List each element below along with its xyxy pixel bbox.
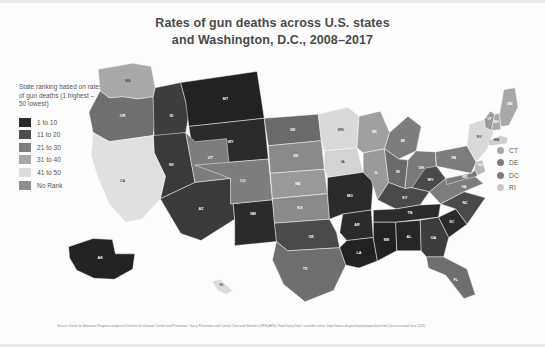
state-shape-me[interactable] (500, 88, 518, 127)
state-label-me: ME (507, 102, 513, 106)
state-label-wa: WA (125, 79, 131, 83)
state-label-tx: TX (303, 267, 308, 271)
state-label-wy: WY (228, 140, 234, 144)
state-label-ky: KY (402, 196, 408, 200)
state-label-la: LA (357, 251, 362, 255)
state-shape-tx[interactable] (272, 242, 345, 302)
state-label-nh: NH (493, 120, 499, 124)
state-label-wi: WI (372, 130, 376, 134)
state-label-ks: KS (297, 206, 303, 210)
state-shape-ok[interactable] (274, 219, 339, 251)
state-label-nv: NV (169, 163, 175, 167)
state-label-ny: NY (477, 135, 483, 139)
state-label-mo: MO (347, 194, 353, 198)
state-label-md: MD (462, 175, 468, 179)
state-label-mi: MI (401, 139, 405, 143)
state-shape-ms[interactable] (373, 222, 396, 261)
state-label-hi: HI (220, 283, 224, 287)
state-label-az: AZ (199, 207, 205, 211)
state-label-ma: MA (494, 138, 500, 142)
state-label-al: AL (407, 235, 413, 239)
state-label-fl: FL (454, 278, 459, 282)
state-label-ga: GA (431, 236, 437, 240)
state-label-ut: UT (208, 156, 214, 160)
source-note: Source: Center for American Progress ana… (57, 324, 527, 328)
state-label-nc: NC (462, 201, 468, 205)
state-label-ak: AK (98, 256, 104, 260)
state-label-nm: NM (250, 212, 256, 216)
state-label-ar: AR (354, 223, 360, 227)
choropleth-map: WAORIDMTWYNVUTCAAZNMCONDSDNEKSOKTXMNIAMO… (30, 51, 525, 316)
title-line-1: Rates of gun deaths across U.S. states (0, 15, 545, 32)
state-label-in: IN (396, 170, 400, 174)
state-label-or: OR (120, 114, 126, 118)
state-label-sc: SC (449, 220, 454, 224)
state-label-ia: IA (341, 160, 345, 164)
state-label-sd: SD (293, 154, 298, 158)
state-label-ms: MS (384, 238, 390, 242)
state-label-oh: OH (418, 166, 424, 170)
state-label-mt: MT (223, 97, 229, 101)
state-label-pa: PA (451, 156, 456, 160)
state-label-ca: CA (120, 179, 126, 183)
state-label-wv: WV (427, 178, 433, 182)
state-label-vt: VT (487, 117, 492, 121)
state-label-id: ID (170, 114, 174, 118)
figure-container: Rates of gun deaths across U.S. states a… (0, 0, 545, 347)
state-shapes-group (69, 63, 518, 302)
state-label-ne: NE (295, 182, 301, 186)
state-label-mn: MN (338, 128, 344, 132)
state-label-co: CO (240, 179, 246, 183)
state-label-tn: TN (408, 211, 413, 215)
us-map-svg: WAORIDMTWYNVUTCAAZNMCONDSDNEKSOKTXMNIAMO… (30, 51, 525, 316)
state-label-nd: ND (290, 128, 296, 132)
state-shape-fl[interactable] (426, 257, 475, 299)
state-label-ok: OK (308, 235, 314, 239)
state-label-va: VA (462, 185, 467, 189)
page-title: Rates of gun deaths across U.S. states a… (0, 15, 545, 49)
title-line-2: and Washington, D.C., 2008–2017 (0, 32, 545, 49)
state-label-nj: NJ (478, 163, 483, 167)
